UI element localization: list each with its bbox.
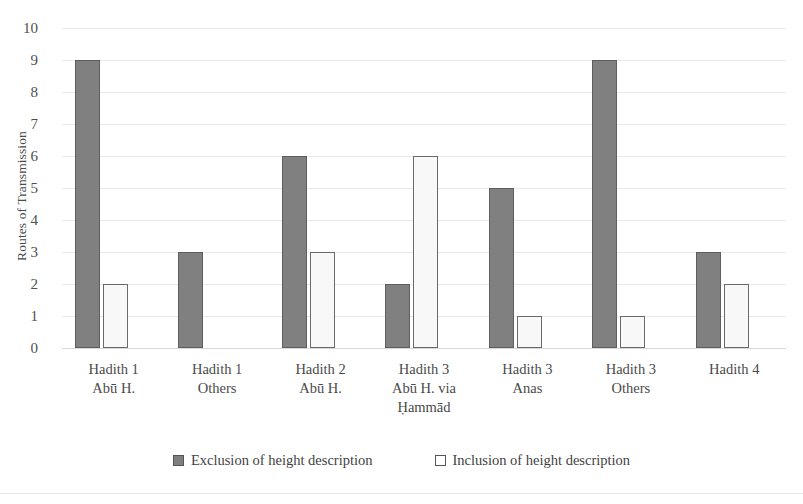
bar-group — [269, 28, 372, 348]
legend-item-exclusion: Exclusion of height description — [173, 452, 373, 469]
bar — [103, 284, 128, 348]
x-axis-category-label: Hadith 1Abū H. — [62, 360, 165, 398]
category-label-line: Hadith 1 — [62, 360, 165, 379]
category-label-line: Ḥammād — [372, 398, 475, 417]
x-axis-category-label: Hadith 3Others — [579, 360, 682, 398]
y-axis-tick-label: 1 — [0, 308, 38, 325]
bar-group — [165, 28, 268, 348]
y-axis-tick-label: 9 — [0, 52, 38, 69]
bar — [282, 156, 307, 348]
outlined-white-square-icon — [435, 455, 446, 466]
category-label-line: Hadith 3 — [579, 360, 682, 379]
bar — [620, 316, 645, 348]
plot-area: 109876543210 — [62, 28, 786, 348]
category-label-line: Abū H. via — [372, 379, 475, 398]
filled-gray-square-icon — [173, 455, 184, 466]
y-axis-tick-label: 0 — [0, 340, 38, 357]
x-axis-category-labels: Hadith 1Abū H.Hadith 1OthersHadith 2Abū … — [62, 360, 786, 440]
x-axis-category-label: Hadith 1Others — [165, 360, 268, 398]
x-axis-category-label: Hadith 3Abū H. viaḤammād — [372, 360, 475, 417]
bar — [489, 188, 514, 348]
x-axis-category-label: Hadith 4 — [683, 360, 786, 379]
category-label-line: Anas — [476, 379, 579, 398]
legend-label-inclusion: Inclusion of height description — [453, 452, 631, 469]
bar-group — [62, 28, 165, 348]
bar — [75, 60, 100, 348]
chart-legend: Exclusion of height description Inclusio… — [0, 452, 803, 469]
bar — [696, 252, 721, 348]
x-axis-category-label: Hadith 3Anas — [476, 360, 579, 398]
y-axis-tick-label: 6 — [0, 148, 38, 165]
y-axis-tick-label: 8 — [0, 84, 38, 101]
bar — [385, 284, 410, 348]
bar — [724, 284, 749, 348]
bar-chart-figure: Routes of Transmission 109876543210 Hadi… — [0, 0, 803, 504]
bar — [310, 252, 335, 348]
y-axis-tick-label: 4 — [0, 212, 38, 229]
y-axis-tick-label: 3 — [0, 244, 38, 261]
category-label-line: Hadith 4 — [683, 360, 786, 379]
category-label-line: Hadith 2 — [269, 360, 372, 379]
bar-group — [372, 28, 475, 348]
gridline — [62, 348, 786, 349]
bar-group — [579, 28, 682, 348]
legend-item-inclusion: Inclusion of height description — [435, 452, 631, 469]
legend-label-exclusion: Exclusion of height description — [191, 452, 373, 469]
bar — [178, 252, 203, 348]
category-label-line: Hadith 1 — [165, 360, 268, 379]
bar-group — [683, 28, 786, 348]
category-label-line: Abū H. — [62, 379, 165, 398]
bar — [413, 156, 438, 348]
y-axis-tick-label: 2 — [0, 276, 38, 293]
x-axis-category-label: Hadith 2Abū H. — [269, 360, 372, 398]
bottom-divider — [0, 493, 803, 494]
category-label-line: Hadith 3 — [476, 360, 579, 379]
category-label-line: Others — [579, 379, 682, 398]
category-label-line: Abū H. — [269, 379, 372, 398]
y-axis-tick-label: 7 — [0, 116, 38, 133]
category-label-line: Hadith 3 — [372, 360, 475, 379]
y-axis-tick-label: 10 — [0, 20, 38, 37]
bar — [592, 60, 617, 348]
bar-groups — [62, 28, 786, 348]
y-axis-tick-label: 5 — [0, 180, 38, 197]
bar-group — [476, 28, 579, 348]
category-label-line: Others — [165, 379, 268, 398]
bar — [517, 316, 542, 348]
